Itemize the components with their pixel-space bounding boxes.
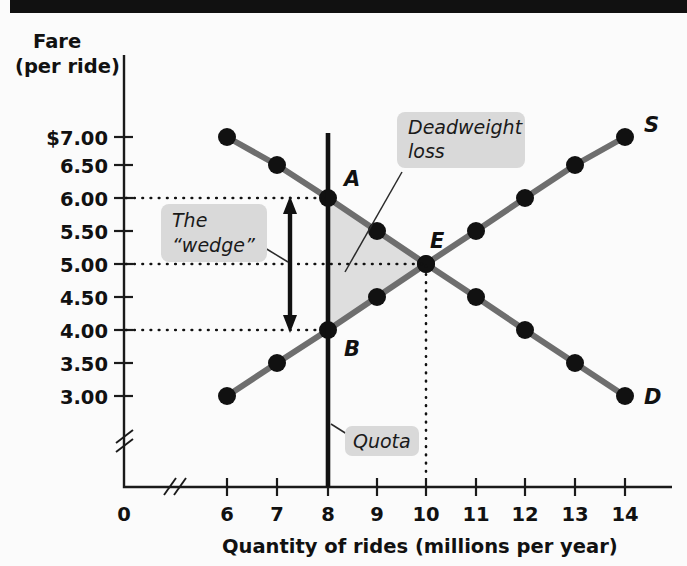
x-tick-label-12: 12 — [511, 503, 538, 526]
x-tick-label-8: 8 — [321, 503, 335, 526]
wedge-leader-line — [265, 248, 288, 262]
quota-callout-label: Quota — [353, 430, 411, 452]
point-label-a: A — [342, 167, 360, 191]
callout-quota: Quota — [345, 426, 419, 456]
y-axis-title-line1: Fare — [33, 30, 81, 53]
x-tick-label-7: 7 — [270, 503, 284, 526]
deadweight-callout-line2: loss — [408, 140, 445, 162]
deadweight-callout-line1: Deadweight — [408, 116, 524, 138]
y-tick-label-5-50: 5.50 — [60, 221, 108, 244]
x-tick-label-6: 6 — [220, 503, 234, 526]
x-tick-label-0: 0 — [117, 503, 131, 526]
x-tick-label-13: 13 — [561, 503, 588, 526]
wedge-double-arrow — [283, 196, 297, 333]
y-tick-label-3-50: 3.50 — [60, 353, 108, 376]
y-tick-label-4-00: 4.00 — [60, 320, 108, 343]
supply-curve-label: S — [644, 113, 659, 137]
demand-curve-label: D — [644, 385, 661, 409]
x-tick-label-14: 14 — [611, 503, 638, 526]
point-label-b: B — [344, 337, 360, 361]
point-label-e: E — [430, 229, 445, 253]
wedge-callout-line2: “wedge” — [172, 234, 255, 256]
deadweight-loss-region — [328, 198, 426, 330]
x-tick-label-11: 11 — [462, 503, 489, 526]
wedge-callout-line1: The — [172, 209, 207, 231]
callout-deadweight-loss: Deadweight loss — [397, 112, 525, 168]
y-tick-label-5-00: 5.00 — [60, 254, 108, 277]
x-axis-title: Quantity of rides (millions per year) — [222, 535, 618, 558]
y-tick-label-3-00: 3.00 — [60, 386, 108, 409]
y-tick-label-7-00: $7.00 — [46, 127, 108, 150]
y-tick-label-6-50: 6.50 — [60, 155, 108, 178]
x-tick-label-9: 9 — [370, 503, 384, 526]
x-tick-label-10: 10 — [412, 503, 439, 526]
callout-wedge: The “wedge” — [161, 204, 267, 262]
y-axis-title-line2: (per ride) — [15, 55, 120, 78]
y-tick-label-4-50: 4.50 — [60, 287, 108, 310]
figure-canvas: Deadweight loss The “wedge” Quota A B E … — [0, 0, 687, 566]
economics-quota-chart: Deadweight loss The “wedge” Quota A B E … — [0, 0, 687, 566]
y-tick-label-6-00: 6.00 — [60, 188, 108, 211]
